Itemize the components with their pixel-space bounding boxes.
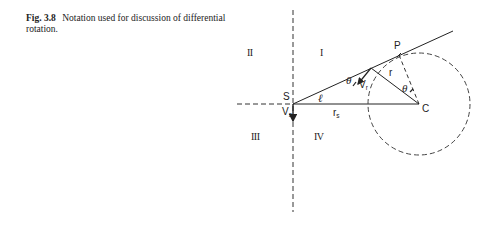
quadrant-label-I: I [320, 47, 323, 58]
label-vs: Vs [282, 106, 293, 118]
point-label-p: P [394, 40, 401, 51]
angle-arc-2 [410, 89, 413, 92]
point-label-s: S [283, 91, 290, 102]
label-l: ℓ [318, 92, 323, 104]
quadrant-label-IV: IV [314, 131, 325, 142]
label-rs: rs [333, 107, 340, 119]
line-of-sight [293, 31, 453, 104]
label-theta-1: θ [346, 74, 352, 86]
quadrant-label-II: II [247, 47, 253, 58]
radius-r [371, 68, 419, 104]
quadrant-label-III: III [251, 131, 260, 142]
label-r: r [389, 67, 393, 78]
angle-arc-1 [353, 82, 356, 86]
point-label-c: C [422, 103, 429, 114]
label-theta-2: θ [402, 82, 408, 94]
label-vr: Vr [359, 79, 369, 91]
rotation-diagram: I II III IV S P C ℓ r rs Vs Vr θ θ [0, 0, 495, 232]
